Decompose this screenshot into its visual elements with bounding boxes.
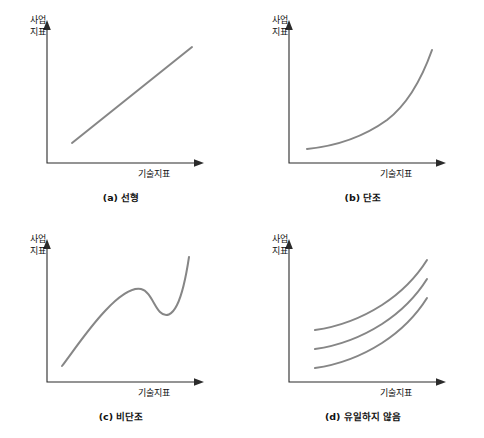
figure-container: 사업 지표 기술지표 (a) 선형 사업 지표 기술지표 (b) 단조 사업 지 — [0, 0, 484, 438]
curve-lower — [315, 298, 427, 368]
curve-linear — [72, 47, 192, 143]
x-axis-arrow-icon — [436, 159, 446, 167]
axis-lines — [47, 247, 196, 382]
panel-caption-c: (c) 비단조 — [0, 409, 242, 423]
y-axis-label: 사업 지표 — [14, 233, 46, 257]
curve-monotonic — [307, 50, 432, 149]
axes-c — [43, 239, 204, 386]
panel-a: 사업 지표 기술지표 (a) 선형 — [0, 0, 242, 219]
panel-caption-b: (b) 단조 — [242, 190, 484, 204]
curve-non-monotonic — [62, 257, 189, 366]
x-axis-label: 기술지표 — [380, 387, 444, 399]
panel-caption-d: (d) 유일하지 않음 — [242, 409, 484, 423]
x-axis-arrow-icon — [194, 159, 204, 167]
x-axis-arrow-icon — [436, 378, 446, 386]
panel-b: 사업 지표 기술지표 (b) 단조 — [242, 0, 484, 219]
axis-lines — [47, 28, 196, 163]
axes-d — [285, 239, 446, 386]
axis-lines — [289, 28, 438, 163]
axes-a — [43, 20, 204, 167]
y-axis-label: 사업 지표 — [256, 14, 288, 38]
panel-c: 사업 지표 기술지표 (c) 비단조 — [0, 219, 242, 438]
x-axis-label: 기술지표 — [380, 168, 444, 180]
y-axis-label: 사업 지표 — [256, 233, 288, 257]
x-axis-label: 기술지표 — [138, 168, 202, 180]
axes-b — [285, 20, 446, 167]
curve-middle — [315, 279, 427, 349]
x-axis-arrow-icon — [194, 378, 204, 386]
panel-d: 사업 지표 기술지표 (d) 유일하지 않음 — [242, 219, 484, 438]
y-axis-label: 사업 지표 — [14, 14, 46, 38]
panel-caption-a: (a) 선형 — [0, 190, 242, 204]
x-axis-label: 기술지표 — [138, 387, 202, 399]
